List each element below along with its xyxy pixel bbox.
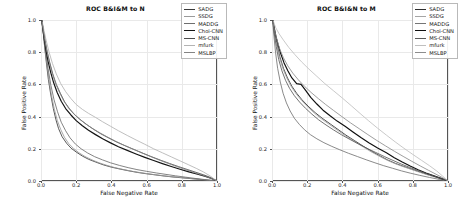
x-axis-label-right: False Negative Rate: [272, 190, 448, 196]
legend-left: SADGSSDGMADDGChoi-CNNMS-CNNmfurkMSLBP: [181, 3, 227, 59]
y-tickmark: [39, 149, 41, 150]
legend-item-ms-cnn[interactable]: MS-CNN: [184, 35, 223, 41]
legend-line-swatch: [184, 23, 195, 24]
legend-item-mfurk[interactable]: mfurk: [184, 42, 223, 48]
legend-item-ssdg[interactable]: SSDG: [415, 13, 454, 19]
legend-label: mfurk: [429, 42, 444, 48]
legend-line-swatch: [415, 23, 426, 24]
legend-item-mslbp[interactable]: MSLBP: [415, 50, 454, 56]
y-tickmark: [270, 117, 272, 118]
x-tick-label: 0.0: [37, 182, 45, 188]
chart-panel-right: ROC B&I&N to M 0.00.20.40.60.81.0 0.00.2…: [231, 0, 462, 215]
y-tickmark: [39, 52, 41, 53]
legend-label: MS-CNN: [198, 35, 219, 41]
legend-line-swatch: [415, 16, 426, 17]
legend-label: MS-CNN: [429, 35, 450, 41]
y-tickmark: [39, 181, 41, 182]
legend-line-swatch: [184, 52, 195, 53]
y-tickmark: [270, 149, 272, 150]
y-tickmark: [39, 117, 41, 118]
legend-label: SSDG: [429, 13, 444, 19]
y-tickmark: [270, 84, 272, 85]
roc-figure: ROC B&I&M to N 0.00.20.40.60.81.0 0.00.2…: [0, 0, 462, 215]
legend-line-swatch: [415, 52, 426, 53]
x-tick-label: 0.2: [72, 182, 80, 188]
legend-item-maddg[interactable]: MADDG: [184, 21, 223, 27]
legend-item-mslbp[interactable]: MSLBP: [184, 50, 223, 56]
x-tick-label: 1.0: [444, 182, 452, 188]
x-tick-label: 0.8: [178, 182, 186, 188]
legend-item-ssdg[interactable]: SSDG: [184, 13, 223, 19]
y-tickmark: [270, 181, 272, 182]
legend-line-swatch: [415, 9, 426, 10]
y-tick-label: 0.8: [20, 49, 36, 55]
legend-item-sadg[interactable]: SADG: [184, 6, 223, 12]
legend-line-swatch: [184, 45, 195, 46]
gridline-horizontal: [41, 181, 217, 182]
y-tick-label: 0.0: [251, 178, 267, 184]
legend-item-choi-cnn[interactable]: Choi-CNN: [184, 28, 223, 34]
chart-panel-left: ROC B&I&M to N 0.00.20.40.60.81.0 0.00.2…: [0, 0, 231, 215]
legend-label: mfurk: [198, 42, 213, 48]
legend-label: SADG: [429, 6, 444, 12]
x-axis-label-left: False Negative Rate: [41, 190, 217, 196]
legend-label: MADDG: [429, 21, 449, 27]
legend-line-swatch: [415, 30, 426, 31]
legend-item-choi-cnn[interactable]: Choi-CNN: [415, 28, 454, 34]
legend-item-sadg[interactable]: SADG: [415, 6, 454, 12]
y-tick-label: 0.0: [20, 178, 36, 184]
legend-line-swatch: [184, 9, 195, 10]
legend-label: Choi-CNN: [198, 28, 223, 34]
x-tick-label: 0.2: [303, 182, 311, 188]
x-tick-label: 0.4: [107, 182, 115, 188]
y-tick-label: 1.0: [20, 17, 36, 23]
x-tick-label: 0.6: [142, 182, 150, 188]
legend-line-swatch: [184, 16, 195, 17]
x-tick-label: 0.0: [268, 182, 276, 188]
gridline-horizontal: [272, 181, 448, 182]
x-tick-label: 0.8: [409, 182, 417, 188]
legend-line-swatch: [184, 38, 195, 39]
y-tickmark: [270, 20, 272, 21]
legend-label: MSLBP: [429, 50, 446, 56]
legend-item-ms-cnn[interactable]: MS-CNN: [415, 35, 454, 41]
legend-right: SADGSSDGMADDGChoi-CNNMS-CNNmfurkMSLBP: [412, 3, 458, 59]
y-axis-label-right: False Positive Rate: [252, 58, 258, 148]
legend-line-swatch: [415, 45, 426, 46]
y-tickmark: [39, 20, 41, 21]
y-tickmark: [39, 84, 41, 85]
legend-item-maddg[interactable]: MADDG: [415, 21, 454, 27]
y-tick-label: 1.0: [251, 17, 267, 23]
x-tick-label: 0.4: [338, 182, 346, 188]
legend-label: MSLBP: [198, 50, 215, 56]
legend-label: SADG: [198, 6, 213, 12]
legend-line-swatch: [415, 38, 426, 39]
x-tick-label: 1.0: [213, 182, 221, 188]
y-axis-label-left: False Positive Rate: [21, 58, 27, 148]
legend-label: Choi-CNN: [429, 28, 454, 34]
y-tick-label: 0.8: [251, 49, 267, 55]
legend-label: SSDG: [198, 13, 213, 19]
legend-item-mfurk[interactable]: mfurk: [415, 42, 454, 48]
y-tickmark: [270, 52, 272, 53]
x-tick-label: 0.6: [373, 182, 381, 188]
legend-label: MADDG: [198, 21, 218, 27]
legend-line-swatch: [184, 30, 195, 31]
